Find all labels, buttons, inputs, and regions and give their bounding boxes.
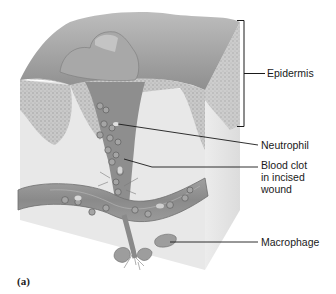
label-blood-clot-line-3: wound xyxy=(261,183,307,195)
label-blood-clot: Blood clot in incised wound xyxy=(261,159,307,195)
label-blood-clot-line-1: Blood clot xyxy=(261,159,307,171)
epidermis-bracket xyxy=(237,21,265,127)
panel-label: (a) xyxy=(17,275,30,287)
wound-healing-diagram: Epidermis Neutrophil Blood clot in incis… xyxy=(0,0,336,294)
label-neutrophil: Neutrophil xyxy=(261,139,309,151)
label-blood-clot-line-2: in incised xyxy=(261,171,307,183)
label-macrophage: Macrophage xyxy=(261,236,319,248)
label-epidermis: Epidermis xyxy=(267,67,314,79)
